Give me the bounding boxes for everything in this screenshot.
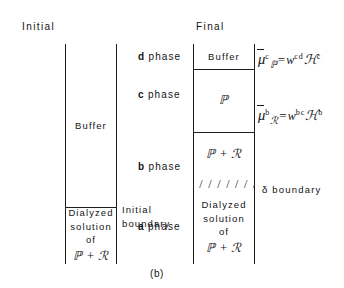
final-phase-letter-d: d [138,51,145,62]
equation-c-phase: μcℙ=wcdℋc [258,52,321,70]
final-phase-label-c: c phase [138,90,181,100]
equals-sign-c: = [277,52,286,67]
final-a-phase-species: ℙ + ℛ [206,239,241,257]
initial-buffer-label: Buffer [75,119,107,133]
initial-solution-line-1: Dialyzed [68,206,113,220]
w-symbol-bc: w [288,109,296,123]
final-c-phase-content: ℙ [219,91,228,109]
final-a-phase-line-3: of [219,225,229,239]
final-phase-letter-c: c [138,89,144,100]
final-phase-word-a: phase [148,221,181,232]
final-a-phase-cell: Dialyzed solution of ℙ + ℛ [193,191,255,264]
final-phase-word-d: phase [149,51,182,62]
equation-b-phase: μbℛ=wbcℋb [258,108,323,126]
final-column-header: Final [196,22,225,32]
final-a-phase-line-1: Dialyzed [201,198,246,212]
figure-caption: (b) [150,268,164,279]
mu-bar-symbol-c: μ [258,51,265,67]
w-superscript-bc: bc [296,108,306,117]
final-b-phase-cell: ℙ + ℛ [193,132,255,177]
initial-solution-line-2: solution [70,220,112,234]
initial-dialyzed-solution-cell: Dialyzed solution of ℙ + ℛ [65,207,117,264]
final-tube: Buffer ℙ ℙ + ℛ / / / / / / / / Dialyzed … [193,44,255,264]
initial-column-header: Initial [22,22,55,32]
dialysis-phase-diagram: Initial Buffer Dialyzed solution of ℙ + … [0,0,344,288]
initial-buffer-cell: Buffer [65,44,117,207]
final-c-phase-cell: ℙ [193,69,255,132]
delta-boundary-label: δ boundary [262,185,322,195]
final-phase-word-c: phase [148,89,181,100]
final-phase-label-a: a phase [138,222,181,232]
w-symbol-cd: w [286,53,294,67]
final-b-phase-content: ℙ + ℛ [206,145,241,163]
script-h-superscript-b: b [318,108,323,117]
initial-solution-line-3: of [86,233,96,247]
mu-subscript-p: ℙ [270,59,277,70]
script-h-symbol-b: ℋ [305,108,318,123]
final-d-phase-cell: Buffer [193,44,255,69]
final-phase-label-d: d phase [138,52,181,62]
mu-bar-symbol-b: μ [258,107,265,123]
initial-solution-species: ℙ + ℛ [73,247,108,265]
initial-boundary-label-line-1: Initial [122,205,152,215]
delta-boundary-hatch-band: / / / / / / / / [193,177,255,191]
script-h-superscript-c: c [317,52,322,61]
initial-tube: Buffer Dialyzed solution of ℙ + ℛ [65,44,117,264]
final-d-phase-content: Buffer [208,50,240,64]
final-phase-letter-b: b [138,161,145,172]
final-phase-letter-a: a [138,221,144,232]
w-superscript-cd: cd [294,52,304,61]
equals-sign-b: = [278,108,287,123]
final-phase-word-b: phase [149,161,182,172]
final-phase-label-b: b phase [138,162,181,172]
final-a-phase-line-2: solution [203,212,245,226]
script-h-symbol-c: ℋ [304,52,317,67]
